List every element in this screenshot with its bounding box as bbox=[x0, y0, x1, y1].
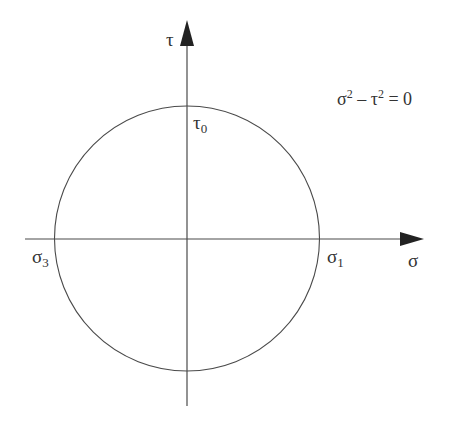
sigma1-label: σ1 bbox=[327, 247, 344, 269]
sigma3-label: σ3 bbox=[32, 247, 49, 269]
sigma-axis-label: σ bbox=[408, 251, 418, 270]
equation-label: σ2 – τ2 = 0 bbox=[337, 88, 412, 108]
sigma-axis-arrow-icon bbox=[400, 232, 424, 246]
tau-axis-arrow-icon bbox=[180, 20, 194, 46]
tau-axis-label: τ bbox=[166, 30, 174, 49]
mohr-circle-diagram bbox=[0, 0, 449, 421]
tau0-label: τ0 bbox=[193, 113, 207, 135]
